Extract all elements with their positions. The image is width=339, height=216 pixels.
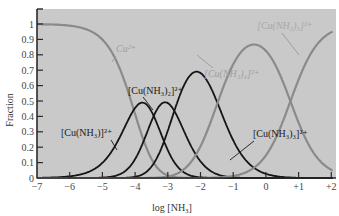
x-tick-label: 0 — [263, 181, 268, 192]
y-tick-label: 0.9 — [22, 34, 35, 45]
x-axis-title: log [NH3] — [152, 202, 192, 215]
x-tick-label: +2 — [326, 181, 337, 192]
y-tick-label: 0.4 — [22, 111, 35, 122]
label-cu-nh3-1: [Cu(NH₃)]²⁺ — [61, 127, 112, 139]
x-tick-label: −6 — [64, 181, 75, 192]
y-tick-label: 0.7 — [22, 65, 35, 76]
y-tick-label: 0.1 — [22, 157, 35, 168]
x-tick-label: −7 — [32, 181, 43, 192]
y-axis-title: Fraction — [4, 93, 15, 126]
x-tick-label: −5 — [97, 181, 108, 192]
y-tick-label: 0.8 — [22, 49, 35, 60]
x-tick-label: −1 — [228, 181, 239, 192]
label-cu2plus: Cu²⁺ — [116, 43, 136, 54]
speciation-chart: Cu²⁺[Cu(NH₃)₅]²⁺[Cu(NH₃)₄]²⁺[Cu(NH₃)₂]²⁺… — [0, 0, 339, 216]
x-tick-label: −3 — [162, 181, 173, 192]
y-tick-label: 1 — [29, 19, 34, 30]
label-cu-nh3-2: [Cu(NH₃)₂]²⁺ — [128, 85, 183, 97]
x-tick-label: −2 — [195, 181, 206, 192]
y-tick-label: 0.3 — [22, 126, 35, 137]
label-cu-nh3-4: [Cu(NH₃)₄]²⁺ — [204, 68, 259, 80]
y-tick-label: 0.2 — [22, 142, 35, 153]
y-tick-label: 0.6 — [22, 80, 35, 91]
x-tick-label: +1 — [293, 181, 304, 192]
label-cu-nh3-3: [Cu(NH₃)₃]²⁺ — [253, 128, 308, 140]
label-cu-nh3-5: [Cu(NH₃)₅]²⁺ — [257, 20, 312, 32]
x-tick-label: −4 — [130, 181, 141, 192]
plot-background — [37, 9, 336, 178]
y-tick-label: 0.5 — [22, 96, 35, 107]
